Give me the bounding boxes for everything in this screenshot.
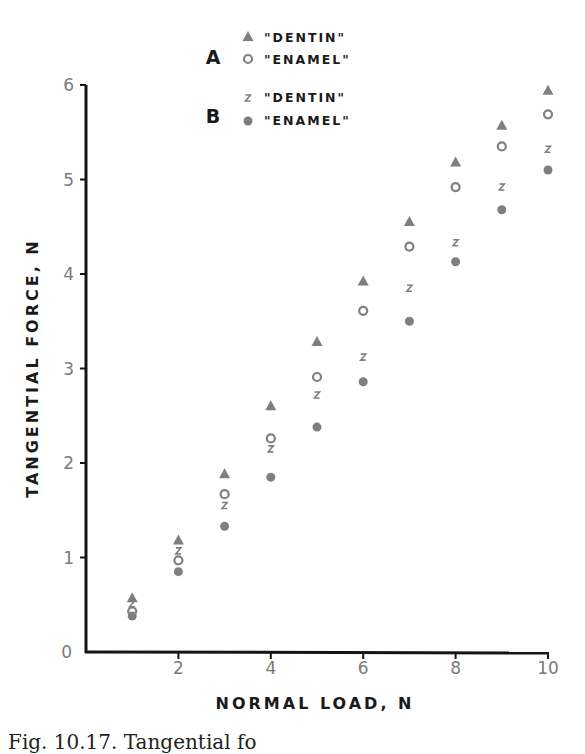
y-axis-title: TANGENTIAL FORCE, N [23, 238, 42, 497]
filled-circle-marker-icon [405, 317, 414, 326]
x-tick-label: 8 [450, 658, 461, 678]
x-marker-icon [407, 285, 412, 291]
filled-circle-marker-icon [174, 567, 183, 576]
legend-group-a-label: A [206, 46, 221, 68]
open-circle-marker-icon [544, 110, 552, 118]
open-circle-marker-icon [244, 55, 252, 63]
x-marker-icon [361, 354, 366, 360]
y-ticks: 0123456 [61, 75, 86, 662]
filled-circle-marker-icon [359, 377, 368, 386]
x-tick-label: 4 [265, 658, 276, 678]
open-circle-marker-icon [452, 183, 460, 191]
open-circle-marker-icon [267, 434, 275, 442]
legend-b-dentin-label: "DENTIN" [264, 90, 346, 105]
open-circle-marker-icon [174, 556, 182, 564]
y-tick-label: 4 [63, 264, 74, 284]
axes: 0123456 246810 [61, 75, 559, 678]
filled-circle-marker-icon [266, 473, 275, 482]
y-tick-label: 2 [63, 453, 74, 473]
legend-a-dentin-label: "DENTIN" [264, 30, 346, 45]
filled-circle-marker-icon [451, 257, 460, 266]
triangle-marker-icon [265, 400, 276, 410]
x-marker-icon [499, 184, 504, 190]
x-marker-icon [453, 240, 458, 246]
y-tick-label: 3 [63, 359, 74, 379]
x-axis-line [85, 652, 548, 653]
x-tick-label: 2 [173, 658, 184, 678]
y-tick-label: 6 [63, 75, 74, 95]
legend-group-b-label: B [206, 105, 220, 127]
open-circle-marker-icon [498, 142, 506, 150]
triangle-marker-icon [496, 120, 507, 130]
triangle-marker-icon [243, 31, 254, 41]
filled-circle-marker-icon [220, 522, 229, 531]
filled-circle-marker-icon [497, 205, 506, 214]
triangle-marker-icon [219, 468, 230, 478]
data-points [127, 85, 554, 621]
legend-a-enamel-label: "ENAMEL" [264, 52, 351, 67]
triangle-marker-icon [173, 534, 184, 544]
legend: A "DENTIN" "ENAMEL" B "DENTIN" "ENAMEL" [206, 30, 351, 128]
x-ticks: 246810 [173, 652, 559, 678]
open-circle-marker-icon [221, 490, 229, 498]
x-tick-label: 6 [358, 658, 369, 678]
open-circle-marker-icon [359, 307, 367, 315]
triangle-marker-icon [404, 216, 415, 226]
open-circle-marker-icon [313, 373, 321, 381]
x-marker-icon [176, 548, 181, 554]
filled-circle-marker-icon [544, 166, 553, 175]
y-tick-label: 1 [63, 548, 74, 568]
filled-circle-marker-icon [313, 423, 322, 432]
x-tick-label: 10 [537, 658, 559, 678]
x-marker-icon [246, 95, 251, 101]
triangle-marker-icon [450, 156, 461, 166]
filled-circle-marker-icon [244, 117, 253, 126]
triangle-marker-icon [543, 85, 554, 95]
filled-circle-marker-icon [128, 612, 137, 621]
legend-b-enamel-label: "ENAMEL" [264, 113, 351, 128]
triangle-marker-icon [312, 336, 323, 346]
x-axis-title: NORMAL LOAD, N [216, 694, 415, 713]
x-marker-icon [315, 392, 320, 398]
y-tick-label: 0 [61, 642, 72, 662]
figure-caption: Fig. 10.17. Tangential fo [8, 730, 256, 754]
x-marker-icon [268, 446, 273, 452]
triangle-marker-icon [358, 276, 369, 286]
x-marker-icon [222, 503, 227, 509]
y-tick-label: 5 [63, 170, 74, 190]
open-circle-marker-icon [405, 243, 413, 251]
x-marker-icon [546, 146, 551, 152]
